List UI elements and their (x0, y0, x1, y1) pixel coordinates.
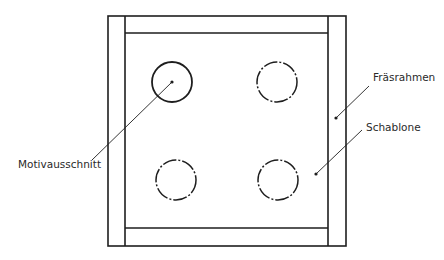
outer-frame (108, 16, 346, 246)
cutout-dashed-circle-top-right (257, 62, 297, 102)
leader-line-frame (336, 86, 369, 118)
leader-line-cutout (92, 82, 172, 160)
leader-line-template (316, 130, 362, 174)
stencil-frame-diagram: Motivausschnitt Fräsrahmen Schablone (0, 0, 444, 260)
leader-dot-frame (334, 116, 337, 119)
label-cutout: Motivausschnitt (18, 158, 101, 170)
cutout-dashed-circle-bottom-left (156, 160, 196, 200)
label-template: Schablone (366, 121, 421, 133)
cutout-dashed-circle-bottom-right (258, 160, 298, 200)
leader-dot-template (314, 172, 317, 175)
leader-dot-cutout (170, 80, 173, 83)
label-frame: Fräsrahmen (373, 71, 435, 83)
